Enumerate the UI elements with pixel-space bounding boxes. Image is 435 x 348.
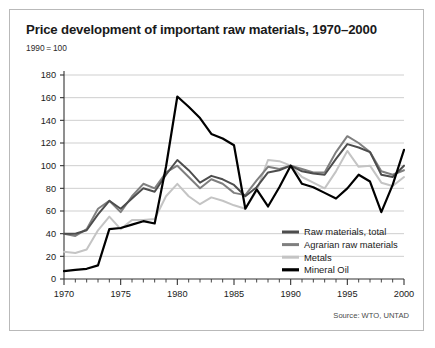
y-tick-label-60: 60: [46, 206, 56, 216]
y-tick-label-140: 140: [41, 116, 56, 126]
y-tick-label-180: 180: [41, 70, 56, 80]
x-tick-label-1990: 1990: [280, 289, 300, 299]
legend-label-0: Raw materials, total: [304, 226, 386, 237]
legend-label-3: Mineral Oil: [304, 264, 349, 275]
y-tick-label-100: 100: [41, 161, 56, 171]
y-tick-label-0: 0: [51, 274, 56, 284]
x-tick-label-1980: 1980: [167, 289, 187, 299]
legend-label-2: Metals: [304, 252, 332, 263]
x-tick-label-2000: 2000: [394, 289, 414, 299]
y-tick-label-120: 120: [41, 138, 56, 148]
y-tick-label-20: 20: [46, 252, 56, 262]
source-note: Source: WTO, UNTAD: [333, 311, 409, 320]
chart-card: Price development of important raw mater…: [9, 9, 424, 331]
y-tick-label-80: 80: [46, 184, 56, 194]
x-tick-label-1995: 1995: [337, 289, 357, 299]
x-tick-label-1970: 1970: [54, 289, 74, 299]
legend-label-1: Agrarian raw materials: [304, 239, 398, 250]
chart-plot-area: 0204060801001201401601801970197519801985…: [10, 10, 425, 332]
x-tick-label-1985: 1985: [224, 289, 244, 299]
x-tick-label-1975: 1975: [110, 289, 130, 299]
y-tick-label-40: 40: [46, 229, 56, 239]
line-chart-svg: 0204060801001201401601801970197519801985…: [10, 10, 425, 332]
y-tick-label-160: 160: [41, 93, 56, 103]
series-line-2: [64, 151, 404, 253]
